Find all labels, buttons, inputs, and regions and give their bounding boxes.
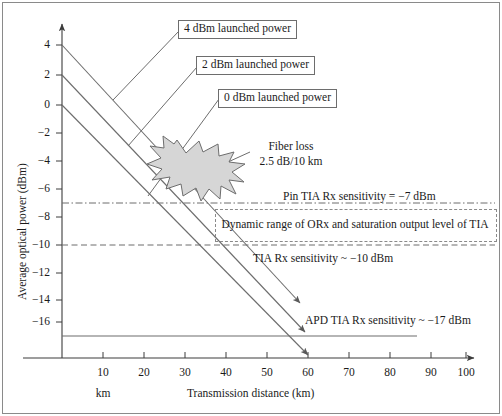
annotation-fiber-loss-line2: 2.5 dB/10 km bbox=[236, 154, 346, 168]
x-tick-label-40: 40 bbox=[206, 367, 246, 379]
annotation-pin-tia-sensitivity: Pin TIA Rx sensitivity = −7 dBm bbox=[283, 189, 436, 203]
annotation-apd-tia-sensitivity: APD TIA Rx sensitivity ~ −17 dBm bbox=[305, 313, 471, 327]
y-tick-label-2: 2 bbox=[14, 69, 50, 81]
x-tick-label-50: 50 bbox=[247, 367, 287, 379]
dynamic-range-label: Dynamic range of ORx and saturation outp… bbox=[215, 218, 495, 230]
callout-2dbm-launched-power[interactable]: 2 dBm launched power bbox=[196, 56, 315, 75]
y-tick-label-0: 0 bbox=[14, 99, 50, 111]
y-tick-label-4: 4 bbox=[14, 39, 50, 51]
x-tick-label-70: 70 bbox=[329, 367, 369, 379]
x-tick-label-80: 80 bbox=[370, 367, 410, 379]
y-axis-title: Average optical power (dBm) bbox=[16, 163, 28, 300]
y-tick-marks bbox=[56, 45, 62, 322]
y-tick-label-m2: −2 bbox=[14, 127, 50, 139]
callout-0dbm-launched-power[interactable]: 0 dBm launched power bbox=[218, 89, 337, 108]
figure-optical-power-vs-distance: 4 2 0 −2 −4 −6 −8 −10 −12 −14 −16 10 20 … bbox=[0, 0, 502, 416]
x-tick-label-10: 10 bbox=[83, 367, 123, 379]
y-tick-label-m16: −16 bbox=[14, 316, 50, 328]
x-tick-label-60: 60 bbox=[288, 367, 328, 379]
x-tick-label-20: 20 bbox=[124, 367, 164, 379]
fiber-loss-burst-icon bbox=[147, 136, 245, 201]
x-axis-title: Transmission distance (km) bbox=[187, 388, 314, 400]
x-tick-marks bbox=[103, 352, 466, 358]
x-tick-label-100: 100 bbox=[446, 367, 486, 379]
x-origin-unit-label: km bbox=[83, 388, 123, 400]
annotation-tia-sensitivity: TIA Rx sensitivity ~ −10 dBm bbox=[253, 251, 393, 265]
x-tick-label-30: 30 bbox=[165, 367, 205, 379]
leader-line-2dbm bbox=[128, 67, 197, 146]
annotation-fiber-loss-line1: Fiber loss bbox=[236, 139, 346, 153]
callout-4dbm-launched-power[interactable]: 4 dBm launched power bbox=[178, 20, 297, 39]
leader-line-4dbm bbox=[113, 31, 179, 100]
x-tick-label-90: 90 bbox=[411, 367, 451, 379]
